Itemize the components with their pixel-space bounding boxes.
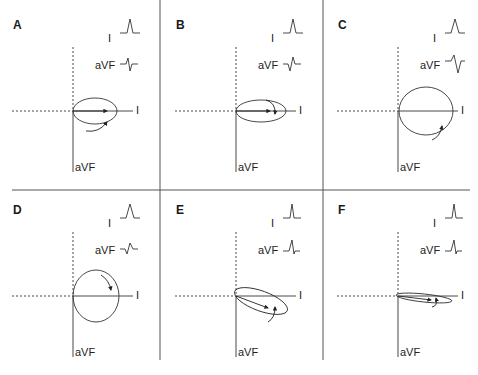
ecg-complex-lead-i <box>445 19 465 33</box>
lead-label-i: I <box>271 32 274 44</box>
lead-label-avf: aVF <box>258 59 278 71</box>
panel-label: D <box>13 203 22 217</box>
ecg-complex-lead-i <box>283 19 303 33</box>
axis-label-i: I <box>299 289 302 301</box>
ecg-complex-lead-avf <box>445 240 462 254</box>
lead-label-i: I <box>433 217 436 229</box>
ecg-complex-lead-avf <box>283 57 301 71</box>
ecg-complex-lead-avf <box>445 55 465 73</box>
axis-label-i: I <box>461 104 464 116</box>
panel-e: EIaVFIaVF <box>175 203 302 358</box>
ecg-complex-lead-avf <box>120 58 138 71</box>
axis-label-avf: aVF <box>400 161 420 173</box>
lead-label-avf: aVF <box>420 59 440 71</box>
lead-label-i: I <box>271 217 274 229</box>
panel-label: B <box>176 18 185 32</box>
panel-b: BIaVFIaVF <box>175 18 303 173</box>
ecg-complex-lead-i <box>120 19 140 33</box>
axis-label-i: I <box>299 104 302 116</box>
lead-label-i: I <box>108 32 111 44</box>
axis-label-avf: aVF <box>400 346 420 358</box>
ecg-complex-lead-i <box>283 204 301 218</box>
lead-label-i: I <box>108 217 111 229</box>
panel-c: CIaVFIaVF <box>337 18 465 173</box>
panel-f: FIaVFIaVF <box>337 203 464 358</box>
vector-loop <box>231 282 290 320</box>
panel-label: F <box>338 203 345 217</box>
axis-label-i: I <box>136 104 139 116</box>
vector-loop-figure: AIaVFIaVFBIaVFIaVFCIaVFIaVFDIaVFIaVFEIaV… <box>0 0 478 375</box>
axis-label-i: I <box>136 289 139 301</box>
lead-label-avf: aVF <box>95 59 115 71</box>
axis-label-avf: aVF <box>238 346 258 358</box>
axis-label-avf: aVF <box>238 161 258 173</box>
vector-loop <box>396 291 453 305</box>
ecg-complex-lead-i <box>445 204 463 218</box>
ecg-complex-lead-avf <box>120 243 138 254</box>
panel-d: DIaVFIaVF <box>12 203 140 358</box>
panel-label: C <box>338 18 347 32</box>
panel-a: AIaVFIaVF <box>12 18 140 173</box>
axis-label-i: I <box>461 289 464 301</box>
mean-vector-arrow <box>398 296 431 300</box>
lead-label-i: I <box>433 32 436 44</box>
rotation-direction-arrow <box>268 307 275 322</box>
axis-label-avf: aVF <box>75 346 95 358</box>
ecg-complex-lead-i <box>120 204 140 218</box>
lead-label-avf: aVF <box>95 244 115 256</box>
lead-label-avf: aVF <box>420 244 440 256</box>
rotation-direction-arrow <box>266 100 275 114</box>
panel-label: A <box>13 18 22 32</box>
ecg-complex-lead-avf <box>283 240 300 254</box>
panel-label: E <box>176 203 184 217</box>
lead-label-avf: aVF <box>258 244 278 256</box>
axis-label-avf: aVF <box>75 161 95 173</box>
rotation-direction-arrow <box>101 275 111 290</box>
